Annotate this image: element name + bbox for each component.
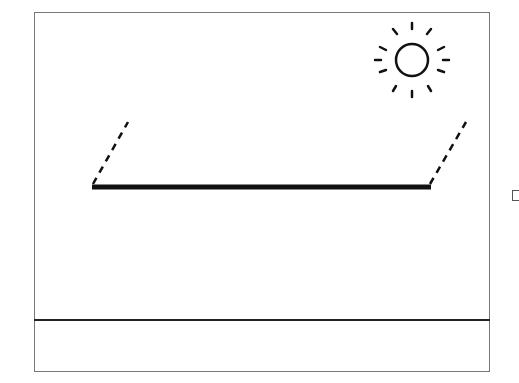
edge-marker bbox=[512, 190, 519, 201]
left-support-dashed bbox=[93, 122, 128, 184]
diagram-canvas bbox=[0, 0, 519, 383]
right-support-dashed bbox=[430, 122, 466, 184]
sun-icon bbox=[375, 23, 449, 97]
